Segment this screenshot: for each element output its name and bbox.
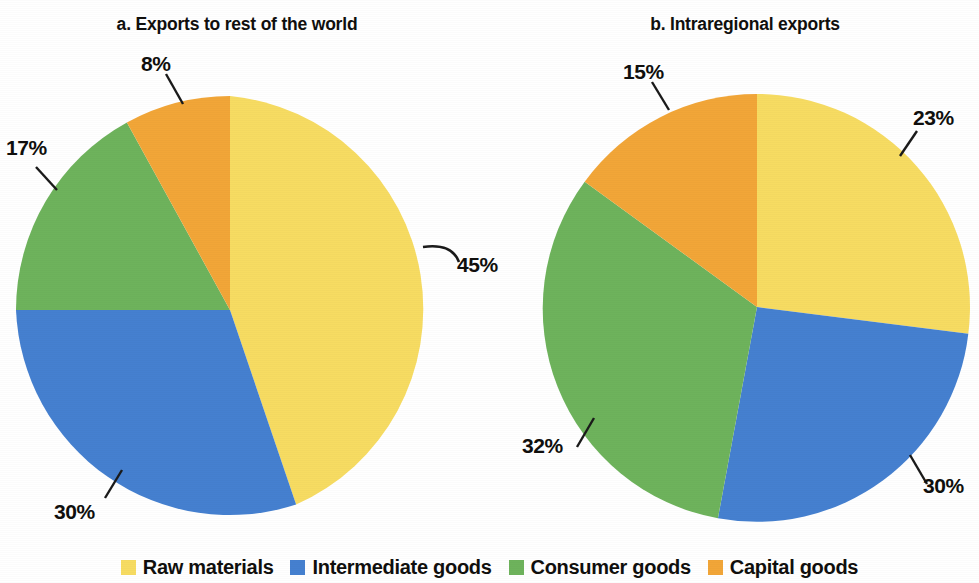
legend-swatch-intermediate-goods-icon	[290, 560, 305, 575]
panel-a-pie	[0, 0, 490, 545]
panel-b-pie	[489, 0, 979, 545]
pie-chart-figure: a. Exports to rest of the world 8% 17% 4…	[0, 0, 979, 583]
legend-swatch-capital-goods-icon	[708, 560, 723, 575]
label-b-capital-goods: 15%	[623, 60, 664, 84]
label-a-intermediate-goods: 30%	[54, 500, 95, 524]
label-a-consumer-goods: 17%	[6, 136, 47, 160]
legend-label-consumer-goods: Consumer goods	[531, 556, 691, 579]
legend-label-capital-goods: Capital goods	[730, 556, 858, 579]
legend-item-capital-goods: Capital goods	[708, 556, 858, 579]
label-b-intermediate-goods: 30%	[923, 474, 964, 498]
leader-line-a-capital-goods	[166, 74, 183, 104]
label-a-capital-goods: 8%	[141, 52, 171, 76]
panel-intraregional-exports: b. Intraregional exports 15% 23% 32% 30%	[489, 0, 979, 545]
legend-item-raw-materials: Raw materials	[121, 556, 274, 579]
label-b-raw-materials: 23%	[913, 106, 954, 130]
legend-label-raw-materials: Raw materials	[143, 556, 274, 579]
chart-legend: Raw materials Intermediate goods Consume…	[0, 556, 979, 579]
leader-line-b-raw-materials	[900, 131, 917, 156]
leader-line-b-capital-goods	[652, 82, 669, 110]
legend-item-consumer-goods: Consumer goods	[509, 556, 691, 579]
leader-line-a-consumer-goods	[36, 167, 57, 190]
legend-label-intermediate-goods: Intermediate goods	[312, 556, 491, 579]
legend-swatch-raw-materials-icon	[121, 560, 136, 575]
leader-line-a-raw-materials	[423, 246, 459, 262]
legend-swatch-consumer-goods-icon	[509, 560, 524, 575]
panel-exports-to-rest-of-world: a. Exports to rest of the world 8% 17% 4…	[0, 0, 490, 545]
label-b-consumer-goods: 32%	[522, 434, 563, 458]
legend-item-intermediate-goods: Intermediate goods	[290, 556, 491, 579]
